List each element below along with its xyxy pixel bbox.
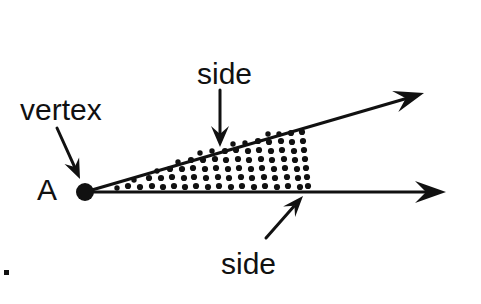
stipple-dot xyxy=(225,166,231,172)
stipple-dot xyxy=(248,166,254,172)
stipple-dot xyxy=(294,166,300,172)
stipple-dot xyxy=(300,138,306,144)
stipple-dot xyxy=(149,183,155,189)
stipple-dot xyxy=(228,184,234,190)
stipple-dot xyxy=(230,141,235,146)
vertex-point-marker xyxy=(76,183,94,201)
stipple-dot xyxy=(297,184,303,190)
side-bottom-label: side xyxy=(221,247,276,280)
stipple-dot xyxy=(278,138,284,144)
stipple-dot xyxy=(158,175,164,181)
stipple-dot xyxy=(212,156,218,162)
stipple-dot xyxy=(239,183,245,189)
stipple-dot xyxy=(125,183,131,189)
stipple-dot xyxy=(215,174,221,180)
stipple-dot xyxy=(279,147,285,153)
stipple-dot xyxy=(259,165,265,171)
point-a-label: A xyxy=(37,173,57,206)
stipple-dot xyxy=(292,157,298,163)
stipple-dot xyxy=(271,166,277,172)
stipple-dot xyxy=(235,156,241,162)
stipple-dot xyxy=(265,131,270,136)
stipple-dot xyxy=(203,175,209,181)
stipple-dot xyxy=(256,147,262,153)
angle-diagram-figure: vertex A side side xyxy=(0,0,481,304)
stipple-dot xyxy=(261,174,267,180)
stipple-dot xyxy=(205,184,211,190)
stipple-dot xyxy=(236,165,242,171)
stipple-dot xyxy=(281,156,287,162)
stipple-dot xyxy=(245,148,251,154)
stipple-dot xyxy=(238,174,244,180)
stipple-dot xyxy=(272,175,278,181)
diagram-canvas: vertex A side side xyxy=(0,0,481,304)
stipple-dot xyxy=(284,174,290,180)
stipple-dot xyxy=(295,175,301,181)
stipple-dot xyxy=(190,165,196,171)
stipple-dot xyxy=(258,156,264,162)
stipple-dot xyxy=(282,165,288,171)
stipple-dot xyxy=(304,174,310,180)
stipple-dot xyxy=(251,184,257,190)
stipple-dot xyxy=(305,183,311,189)
stipple-dot xyxy=(114,185,119,190)
stipple-dot xyxy=(274,184,280,190)
stipple-dot xyxy=(137,184,143,190)
stipple-dot xyxy=(181,175,187,181)
side-top-label: side xyxy=(197,57,252,90)
stipple-dot xyxy=(146,175,152,181)
stipple-dot xyxy=(226,175,232,181)
stipple-dot xyxy=(182,184,188,190)
stipple-dot xyxy=(301,147,307,153)
stipple-dot xyxy=(197,150,202,155)
stipple-dot xyxy=(262,183,268,189)
stipple-dot xyxy=(303,165,309,171)
stipple-dot xyxy=(268,148,274,154)
stipple-dot xyxy=(249,175,255,181)
stipple-dot xyxy=(191,174,197,180)
stipple-dot xyxy=(160,184,166,190)
stipple-dot xyxy=(246,157,252,163)
stipple-dot xyxy=(289,139,295,145)
vertex-label: vertex xyxy=(20,93,102,126)
stipple-dot xyxy=(223,157,229,163)
stipple-dot xyxy=(302,156,308,162)
stipple-dot xyxy=(285,183,291,189)
stipple-dot xyxy=(171,183,177,189)
stipple-dot xyxy=(179,166,185,172)
stipple-dot xyxy=(202,166,208,172)
stipple-dot xyxy=(193,183,199,189)
stipple-dot xyxy=(169,174,175,180)
stipple-dot xyxy=(216,183,222,189)
stipple-dot xyxy=(269,157,275,163)
corner-period-mark xyxy=(4,270,9,275)
stipple-dot xyxy=(213,165,219,171)
stipple-dot xyxy=(291,148,297,154)
